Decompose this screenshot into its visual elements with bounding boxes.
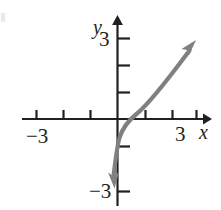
x-axis-tick-label-3: 3 [175, 124, 186, 145]
graph-figure: y 3 −3 −3 3 x [0, 0, 221, 210]
x-axis-tick-label-negative-3: −3 [26, 126, 48, 147]
x-axis-label: x [199, 122, 208, 142]
plotted-curve-group [108, 40, 196, 189]
y-axis-tick-label-negative-3: −3 [89, 181, 111, 202]
y-axis-ticks [118, 39, 131, 192]
exponential-curve [114, 51, 190, 177]
y-axis-tick-label-3: 3 [99, 29, 110, 50]
y-axis-arrowhead [112, 15, 123, 25]
